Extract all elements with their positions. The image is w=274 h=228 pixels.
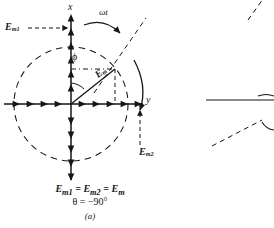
em1-label-base: E [5, 21, 12, 32]
partial-right-figure [206, 0, 274, 146]
figure-label: (a) [0, 211, 180, 222]
phi-angle-arc [71, 83, 84, 89]
em1-label-sub: m1 [12, 25, 20, 32]
phi-angle-label: ϕ [72, 52, 77, 62]
x-axis [68, 14, 75, 181]
caption-equals-1: = [73, 183, 84, 194]
em2-label: Em2 [139, 147, 154, 157]
em2-label-sub: m2 [146, 150, 154, 157]
em1-label: Em1 [5, 22, 20, 32]
omega-t-rotation-arrow [84, 22, 120, 33]
caption-equals-2: = [101, 183, 112, 194]
em2-label-base: E [139, 146, 146, 157]
y-axis-label: y [146, 95, 150, 105]
caption-theta-value: θ = −90° [0, 196, 180, 209]
phasor-vector [71, 69, 115, 104]
x-axis-label: x [68, 2, 72, 12]
caption-theta-text: θ = −90° [72, 196, 107, 207]
omega-t-label: ωt [99, 8, 108, 17]
physics-phasor-figure: x y ωt ϕ Em Em1 Em2 Em1 = Em2 = Em θ = −… [0, 0, 274, 228]
